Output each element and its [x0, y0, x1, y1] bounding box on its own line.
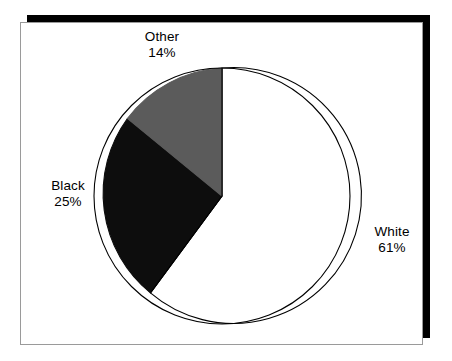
pie-label-black-value: 25% — [16, 194, 120, 210]
pie-label-black-name: Black — [16, 178, 120, 194]
pie-chart-figure: Other 14% Black 25% White 61% — [0, 0, 452, 361]
pie-label-other-value: 14% — [106, 45, 218, 61]
pie-label-white-name: White — [342, 224, 442, 240]
pie-label-other-name: Other — [106, 29, 218, 45]
pie-label-white: White 61% — [342, 224, 442, 256]
pie-label-black: Black 25% — [16, 178, 120, 210]
pie-label-white-value: 61% — [342, 240, 442, 256]
plot-area: Other 14% Black 25% White 61% — [0, 0, 452, 361]
pie-label-other: Other 14% — [106, 29, 218, 61]
